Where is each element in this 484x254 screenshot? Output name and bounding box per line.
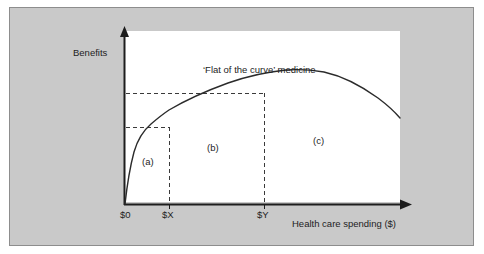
chart-title: ‘Flat of the curve’ medicine: [203, 65, 316, 75]
x-tick-label-zero: $0: [120, 210, 131, 220]
x-axis-label: Health care spending ($): [292, 219, 396, 229]
region-label-c: (c): [313, 136, 324, 146]
region-label-b: (b): [207, 143, 219, 153]
x-tick-label-dollar-x: $X: [162, 210, 174, 220]
region-label-a: (a): [142, 157, 154, 167]
reference-lines-group: [126, 93, 265, 204]
x-axis-arrowhead: [400, 200, 412, 210]
figure-container: Benefits ‘Flat of the curve’ medicine He…: [0, 0, 484, 254]
x-tick-label-dollar-y: $Y: [257, 210, 269, 220]
axes-group: [120, 26, 412, 210]
chart-svg: [0, 0, 484, 254]
y-axis-label: Benefits: [73, 48, 107, 58]
y-axis-arrowhead: [120, 26, 129, 37]
benefits-curve: [125, 70, 400, 204]
